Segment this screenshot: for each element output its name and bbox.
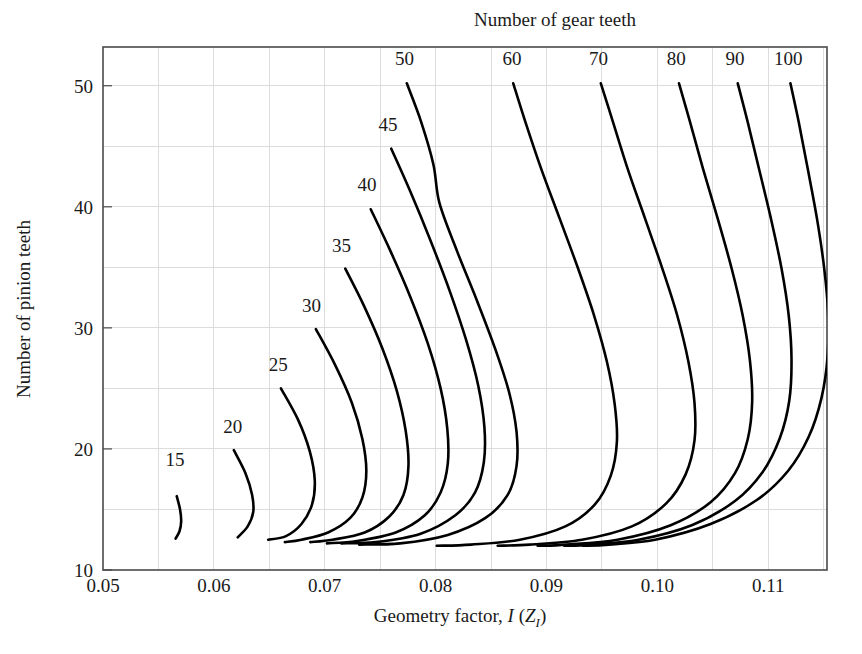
contour-label-60: 60	[503, 48, 522, 69]
y-axis-title: Number of pinion teeth	[13, 220, 34, 398]
x-axis-title: Geometry factor, I (ZI)	[374, 605, 546, 630]
plot-frame	[103, 47, 827, 570]
contour-label-25: 25	[269, 354, 288, 375]
x-tick-label: 0.06	[197, 575, 230, 596]
contour-curve-100	[583, 83, 828, 545]
contour-curve-25	[268, 388, 315, 539]
contour-label-35: 35	[332, 235, 351, 256]
x-tick-label: 0.08	[419, 575, 452, 596]
contour-label-80: 80	[667, 48, 686, 69]
y-tick-label: 50	[74, 76, 93, 97]
contour-curve-40	[327, 209, 448, 543]
x-tick-label: 0.10	[641, 575, 674, 596]
contour-curve-45	[341, 149, 485, 544]
contour-label-40: 40	[357, 174, 376, 195]
y-tick-label: 10	[74, 560, 93, 581]
contour-label-15: 15	[166, 449, 185, 470]
contour-curve-60	[437, 83, 617, 545]
contour-curve-30	[285, 329, 366, 542]
x-tick-label: 0.11	[752, 575, 785, 596]
y-tick-label: 20	[74, 439, 93, 460]
contour-label-30: 30	[302, 295, 321, 316]
contour-curve-70	[498, 83, 696, 545]
contour-curve-15	[176, 496, 182, 538]
contour-curve-50	[359, 83, 517, 544]
contour-label-70: 70	[589, 48, 608, 69]
contour-label-100: 100	[774, 48, 803, 69]
y-tick-label: 40	[74, 197, 93, 218]
contour-curves	[176, 83, 829, 545]
tick-marks	[103, 86, 112, 570]
gridlines	[103, 47, 827, 570]
y-axis-tick-labels: 1020304050	[74, 76, 93, 581]
y-tick-label: 30	[74, 318, 93, 339]
x-tick-label: 0.07	[308, 575, 341, 596]
x-tick-label: 0.09	[530, 575, 563, 596]
contour-label-20: 20	[223, 416, 242, 437]
contour-curve-20	[234, 450, 254, 537]
gear-geometry-factor-figure: 152025303540455060708090100 0.050.060.07…	[0, 0, 862, 654]
x-axis-tick-labels: 0.050.060.070.080.090.100.11	[86, 575, 784, 596]
contour-curve-80	[538, 83, 753, 545]
contour-labels: 152025303540455060708090100	[166, 48, 803, 470]
contour-chart: 152025303540455060708090100 0.050.060.07…	[0, 0, 862, 654]
chart-title: Number of gear teeth	[474, 9, 636, 30]
contour-label-50: 50	[395, 48, 414, 69]
contour-label-45: 45	[378, 114, 397, 135]
contour-label-90: 90	[725, 48, 744, 69]
